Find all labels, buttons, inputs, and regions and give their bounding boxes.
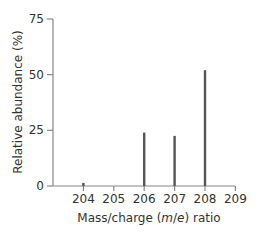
- x-tick-label: 204: [72, 192, 95, 206]
- y-tick-label: 0: [36, 179, 44, 193]
- y-axis: 0255075: [29, 12, 53, 193]
- y-tick-label: 25: [29, 123, 44, 137]
- y-tick-label: 50: [29, 68, 44, 82]
- x-tick-label: 207: [163, 192, 186, 206]
- x-axis-title: Mass/charge (m/e) ratio: [77, 211, 220, 225]
- x-axis: 204205206207208209: [53, 186, 247, 206]
- mass-spectrum-chart: 0255075 204205206207208209 Relative abun…: [0, 0, 265, 237]
- y-axis-title: Relative abundance (%): [11, 30, 25, 174]
- peaks: [83, 70, 205, 186]
- x-tick-label: 209: [224, 192, 247, 206]
- x-tick-label: 205: [102, 192, 125, 206]
- x-tick-label: 206: [133, 192, 156, 206]
- y-tick-label: 75: [29, 12, 44, 26]
- x-tick-label: 208: [194, 192, 217, 206]
